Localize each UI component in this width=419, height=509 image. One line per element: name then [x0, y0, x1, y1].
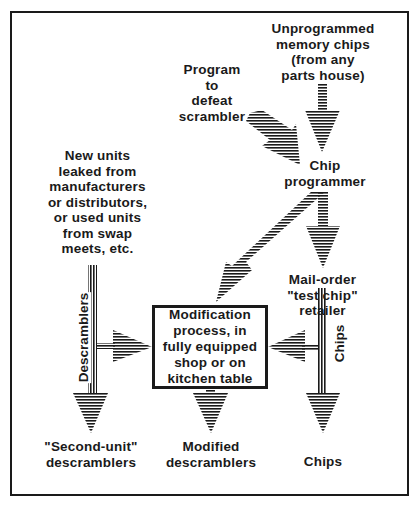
modification-label: Modification process, in fully equipped …	[163, 307, 257, 387]
node-new-units: New units leaked from manufacturers or d…	[40, 148, 155, 257]
edge-label-descramblers: Descramblers	[76, 292, 91, 383]
node-chip-programmer: Chip programmer	[280, 158, 370, 189]
node-second-unit-descramblers: "Second-unit" descramblers	[40, 439, 142, 470]
node-mail-order-retailer: Mail-order "test chip" retailer	[280, 272, 365, 319]
arrow-chips-to-modification	[268, 330, 319, 362]
node-modification-process: Modification process, in fully equipped …	[152, 305, 268, 389]
arrow-descramblers-to-modification	[97, 330, 152, 362]
node-unprogrammed-chips: Unprogrammed memory chips (from any part…	[268, 21, 378, 83]
node-chips-output: Chips	[293, 454, 353, 470]
node-program: Program to defeat scrambler	[172, 62, 252, 124]
edge-label-chips: Chips	[332, 324, 347, 364]
arrow-modification-to-modified	[193, 389, 228, 433]
arrow-chips-to-programmer	[305, 84, 340, 152]
arrow-program-to-programmer	[246, 110, 300, 165]
node-modified-descramblers: Modified descramblers	[160, 439, 262, 470]
